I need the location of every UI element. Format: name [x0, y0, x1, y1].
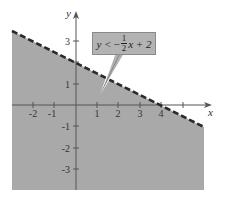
y-axis-label: y: [65, 7, 71, 19]
svg-text:-3: -3: [62, 164, 70, 175]
inequality-rhs: x + 2: [128, 38, 151, 50]
svg-text:-1: -1: [48, 108, 56, 119]
inequality-sign: −: [114, 38, 120, 50]
x-axis-label: x: [207, 106, 213, 118]
svg-text:1: 1: [95, 108, 100, 119]
svg-text:-2: -2: [29, 108, 37, 119]
svg-text:3: 3: [138, 108, 143, 119]
inequality-graph: -2 -1 1 2 3 4 3 1 -1 -2 -3 x y: [0, 0, 225, 199]
svg-text:-2: -2: [62, 143, 70, 154]
svg-text:-1: -1: [62, 121, 70, 132]
inequality-fraction: 1 2: [121, 34, 128, 53]
svg-text:4: 4: [159, 108, 164, 119]
svg-text:3: 3: [65, 36, 70, 47]
fraction-denominator: 2: [122, 44, 127, 53]
inequality-label: y < − 1 2 x + 2: [92, 32, 156, 55]
inequality-lhs: y <: [96, 38, 111, 50]
svg-text:1: 1: [65, 79, 70, 90]
svg-text:2: 2: [116, 108, 121, 119]
